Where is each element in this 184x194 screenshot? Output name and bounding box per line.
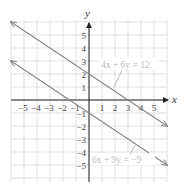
- x-tick-label: −2: [57, 103, 67, 113]
- y-tick-label: 4: [82, 44, 87, 54]
- y-tick-label: −5: [76, 161, 86, 171]
- x-axis-label: x: [171, 93, 177, 105]
- x-tick-label: 5: [152, 103, 157, 113]
- y-tick-label: 3: [82, 57, 87, 67]
- y-tick-label: 5: [82, 31, 87, 41]
- y-tick-label: −3: [76, 135, 86, 145]
- equation-label-2: 6x + 9y = −9: [92, 155, 142, 165]
- x-tick-label: −4: [31, 103, 41, 113]
- y-tick-label: −2: [76, 122, 86, 132]
- equation-label-1: 4x + 6y = 12: [101, 60, 150, 70]
- coordinate-plane-graph: x y −5−4−3−2−112345 54321−1−2−3−4−5 4x +…: [0, 0, 184, 194]
- x-tick-label: −3: [44, 103, 54, 113]
- y-tick-label: −4: [76, 148, 86, 158]
- y-tick-label: 1: [82, 83, 87, 93]
- x-tick-label: 2: [113, 103, 118, 113]
- x-tick-label: 1: [100, 103, 105, 113]
- x-tick-label: 3: [126, 103, 131, 113]
- y-axis-label: y: [84, 7, 90, 19]
- x-tick-label: −5: [18, 103, 28, 113]
